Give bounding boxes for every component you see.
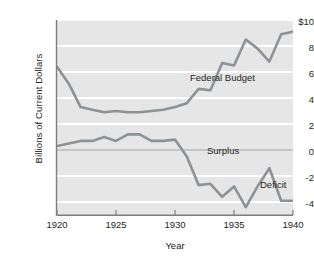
series-label-surplus: Surplus xyxy=(207,145,239,156)
x-tick-label-1930: 1930 xyxy=(153,219,197,230)
series-label-deficit: Deficit xyxy=(260,179,286,190)
chart-canvas xyxy=(57,20,293,215)
x-axis-title: Year xyxy=(57,240,293,251)
x-tick-label-1935: 1935 xyxy=(212,219,256,230)
chart-figure: Billions of Current Dollars $10 8 6 4 2 … xyxy=(0,0,314,264)
x-tick-label-1925: 1925 xyxy=(94,219,138,230)
data-series xyxy=(57,32,293,208)
y-axis-title: Billions of Current Dollars xyxy=(33,14,44,204)
plot-area: Federal Budget Surplus Deficit xyxy=(57,20,293,215)
x-tick-label-1940: 1940 xyxy=(271,219,314,230)
series-line-surplus-deficit xyxy=(57,134,293,207)
x-tick-label-1920: 1920 xyxy=(35,219,79,230)
series-label-federal-budget: Federal Budget xyxy=(190,72,255,83)
